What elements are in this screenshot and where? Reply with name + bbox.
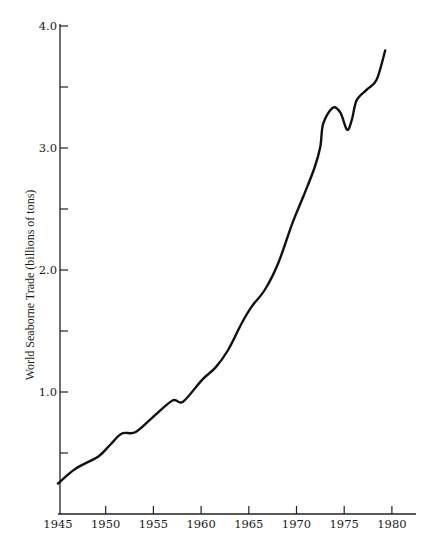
x-tick-label: 1960 (186, 517, 215, 531)
x-tick-label: 1955 (139, 517, 168, 531)
x-tick-label: 1950 (91, 517, 120, 531)
y-tick-label: 4.0 (39, 19, 57, 33)
y-axis-label: World Seaborne Trade (billions of tons) (23, 190, 37, 381)
data-line (58, 50, 385, 483)
y-tick-label: 3.0 (39, 141, 57, 155)
x-tick-label: 1980 (377, 517, 406, 531)
x-tick-label: 1945 (43, 517, 72, 531)
axes (58, 24, 416, 514)
axis-ticks: 1.02.03.04.01945195019551960196519701975… (39, 19, 407, 531)
x-tick-label: 1975 (330, 517, 359, 531)
y-tick-label: 2.0 (39, 263, 57, 277)
x-tick-label: 1965 (234, 517, 263, 531)
y-tick-label: 1.0 (39, 385, 57, 399)
line-chart: 1.02.03.04.01945195019551960196519701975… (0, 0, 432, 541)
x-tick-label: 1970 (282, 517, 311, 531)
